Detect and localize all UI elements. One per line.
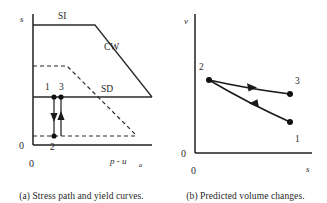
- figure-container: s 0 0 p - u a SI CW SD 1 3 2 (a) Stress …: [0, 0, 327, 203]
- y-origin-zero: 0: [19, 140, 24, 151]
- dot-point-2: [206, 77, 212, 83]
- point-label-3: 3: [59, 82, 64, 92]
- dot-point-3: [58, 94, 63, 99]
- y-axis-label: v: [184, 16, 188, 26]
- dot-point-1: [51, 94, 56, 99]
- dot-point-1: [287, 119, 293, 125]
- panel-b-volume-changes: v 0 0 s 2 3 1 (b) Predicted volume chang…: [164, 0, 327, 203]
- y-axis-label: s: [20, 14, 24, 24]
- x-origin-zero: 0: [29, 158, 34, 169]
- panel-a-stress-path: s 0 0 p - u a SI CW SD 1 3 2 (a) Stress …: [0, 0, 163, 203]
- x-axis-label: p - u: [109, 156, 127, 166]
- x-axis-label: s: [306, 164, 310, 174]
- dot-point-3: [287, 91, 293, 97]
- panel-b-plot: v 0 0 s 2 3 1: [164, 0, 327, 178]
- arrow-left-1-to-2: [249, 99, 259, 108]
- zone-label-cw: CW: [104, 42, 119, 52]
- dot-point-2: [51, 133, 56, 138]
- x-origin-zero: 0: [191, 165, 196, 176]
- point-label-2: 2: [199, 62, 204, 72]
- zone-label-sd: SD: [101, 84, 113, 94]
- point-label-1: 1: [295, 134, 300, 144]
- inner-yield-curve-dashed: [33, 66, 137, 136]
- panel-a-plot: s 0 0 p - u a SI CW SD 1 3 2: [0, 0, 163, 178]
- point-label-3: 3: [295, 76, 300, 86]
- x-axis-label-subscript: a: [139, 161, 142, 168]
- arrow-up-2-to-3: [57, 111, 64, 120]
- arrow-down-1-to-2: [50, 113, 57, 122]
- zone-label-si: SI: [58, 11, 66, 21]
- outer-yield-curve-si-cw: [33, 25, 152, 97]
- panel-b-caption: (b) Predicted volume changes.: [164, 191, 327, 201]
- point-label-1: 1: [45, 82, 50, 92]
- y-origin-zero: 0: [181, 148, 186, 159]
- panel-a-caption: (a) Stress path and yield curves.: [0, 191, 163, 201]
- point-label-2: 2: [50, 142, 55, 152]
- arrow-right-2-to-3: [247, 83, 257, 91]
